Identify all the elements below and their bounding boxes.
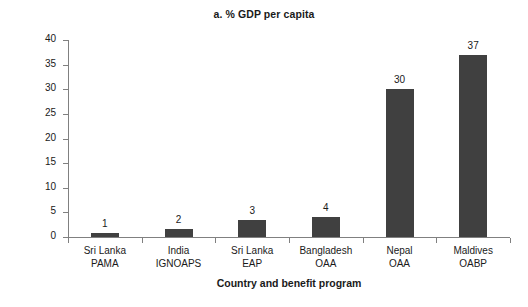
x-axis-separator	[289, 238, 290, 243]
x-axis-category-label-line: Nepal	[363, 245, 437, 258]
bar-value-label: 4	[301, 202, 351, 213]
y-axis-tick: 20	[0, 139, 68, 140]
x-axis-category-label: Sri LankaEAP	[215, 245, 289, 270]
y-axis-tick-label: 10	[45, 181, 56, 192]
y-axis-tick-label: 20	[45, 132, 56, 143]
y-axis-tick: 25	[0, 114, 68, 115]
y-axis-tick: 30	[0, 89, 68, 90]
x-axis-category-label-line: OAA	[363, 258, 437, 271]
x-axis-category-label-line: Sri Lanka	[68, 245, 142, 258]
bar	[312, 217, 340, 237]
bar-chart-figure: a. % GDP per capita Benefit amount, % of…	[0, 0, 528, 307]
x-axis-separator	[215, 238, 216, 243]
y-axis-tick: 40	[0, 40, 68, 41]
x-axis-category-label-line: Maldives	[436, 245, 510, 258]
y-axis-tick: 5	[0, 212, 68, 213]
x-axis-category-label: Sri LankaPAMA	[68, 245, 142, 270]
bar-value-label: 3	[227, 205, 277, 216]
bar-value-label: 30	[375, 74, 425, 85]
x-axis-separator	[510, 238, 511, 243]
x-axis-category-label-line: OAA	[289, 258, 363, 271]
x-axis-category-label-line: Sri Lanka	[215, 245, 289, 258]
bar-value-label: 1	[80, 218, 130, 229]
y-axis-tick-label: 25	[45, 107, 56, 118]
y-axis-tick: 15	[0, 163, 68, 164]
x-axis-category-label: BangladeshOAA	[289, 245, 363, 270]
plot-area: 12343037	[68, 40, 510, 237]
x-axis-title: Country and benefit program	[68, 277, 510, 289]
x-axis-category-label: IndiaIGNOAPS	[142, 245, 216, 270]
x-axis-separator	[142, 238, 143, 243]
x-axis-category-label-line: IGNOAPS	[142, 258, 216, 271]
chart-title: a. % GDP per capita	[0, 8, 528, 20]
x-axis-category-label: MaldivesOABP	[436, 245, 510, 270]
y-axis-tick: 0	[0, 237, 68, 238]
x-axis-category-label-line: OABP	[436, 258, 510, 271]
y-axis-tick-label: 0	[50, 230, 56, 241]
y-axis-tick: 10	[0, 188, 68, 189]
x-axis-category-label-line: Bangladesh	[289, 245, 363, 258]
x-axis-separator	[363, 238, 364, 243]
x-axis-separator	[436, 238, 437, 243]
bar	[386, 89, 414, 237]
bar	[238, 220, 266, 237]
x-axis-separator	[68, 238, 69, 243]
x-axis-category-label-line: India	[142, 245, 216, 258]
x-axis-category-label: NepalOAA	[363, 245, 437, 270]
y-axis-tick-label: 15	[45, 156, 56, 167]
y-axis-tick-label: 40	[45, 33, 56, 44]
bar-value-label: 37	[448, 40, 498, 51]
y-axis-tick-label: 5	[50, 205, 56, 216]
bar	[459, 55, 487, 237]
y-axis-tick: 35	[0, 65, 68, 66]
x-axis-category-label-line: EAP	[215, 258, 289, 271]
x-axis-category-label-line: PAMA	[68, 258, 142, 271]
y-axis-tick-label: 30	[45, 82, 56, 93]
bar	[91, 233, 119, 237]
y-axis-tick-label: 35	[45, 58, 56, 69]
bar-value-label: 2	[154, 214, 204, 225]
bar	[165, 229, 193, 237]
